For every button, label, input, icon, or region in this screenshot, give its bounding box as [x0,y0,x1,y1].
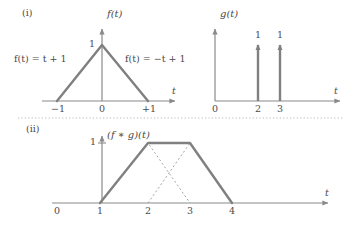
conv-tick-3: 3 [187,206,193,216]
convolution-figure: (i) f(t) t 1 −1 0 +1 f(t) = t + 1 f(t) =… [0,0,360,235]
g-x-axis-label: t [334,86,338,96]
conv-tick-2: 2 [145,206,151,216]
conv-y-axis-label: (f ∗ g)(t) [107,130,150,140]
f-y-axis-label: f(t) [107,9,123,19]
f-equation-right: f(t) = −t + 1 [125,54,186,64]
conv-dotted-triangle-b [148,143,232,203]
g-tick-3: 3 [277,104,283,114]
f-tick-0: 0 [99,104,105,114]
conv-dotted-triangle-a [100,143,190,203]
figure-canvas [0,0,360,235]
panel-f-axes [42,29,175,101]
conv-tick-1: 1 [97,206,103,216]
g-tick-2: 2 [255,104,261,114]
g-impulse-2-label: 1 [277,30,283,40]
g-tick-0: 0 [212,104,218,114]
conv-x-axis-label: t [325,188,329,198]
f-x-axis-label: t [172,86,176,96]
f-equation-left: f(t) = t + 1 [14,54,67,64]
conv-tick-4: 4 [229,206,235,216]
g-impulse-1-label: 1 [255,30,261,40]
conv-peak-value-label: 1 [90,137,96,147]
g-y-axis-label: g(t) [220,9,238,19]
conv-tick-0: 0 [54,206,60,216]
f-tick-minus-1: −1 [51,104,65,114]
panel-i-tag: (i) [22,8,32,18]
f-tick-plus-1: +1 [142,104,156,114]
panel-ii-tag: (ii) [26,124,40,134]
f-peak-value-label: 1 [89,39,95,49]
conv-trapezoid-curve [100,143,232,203]
